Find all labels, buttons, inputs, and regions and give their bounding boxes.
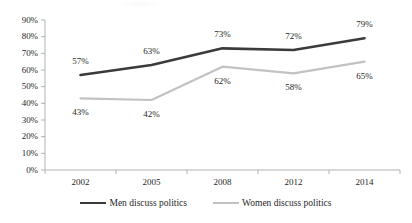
legend-line-icon-women <box>213 202 239 204</box>
x-axis-tick-label: 2012 <box>272 178 316 187</box>
legend-item-women[interactable]: Women discuss politics <box>213 198 331 208</box>
data-label: 79% <box>348 20 382 29</box>
y-axis-tick-label: 80% <box>0 32 38 41</box>
y-axis-tick-label: 10% <box>0 149 38 158</box>
data-label: 42% <box>135 110 169 119</box>
x-axis-tick-label: 2008 <box>201 178 245 187</box>
y-axis-tick-label: 60% <box>0 66 38 75</box>
x-axis-group <box>45 170 400 174</box>
x-axis-tick-label: 2002 <box>59 178 103 187</box>
data-label: 63% <box>135 47 169 56</box>
data-label: 43% <box>64 108 98 117</box>
data-label: 62% <box>206 77 240 86</box>
x-axis-tick-label: 2005 <box>130 178 174 187</box>
data-label: 72% <box>277 32 311 41</box>
chart-legend: Men discuss politics Women discuss polit… <box>0 198 412 208</box>
y-axis-tick-label: 0% <box>0 166 38 175</box>
legend-label-men: Men discuss politics <box>109 198 187 208</box>
y-axis-ticks <box>41 20 45 170</box>
plot-area: 90%80%70%60%50%40%30%20%10%0% 2002200520… <box>0 0 412 223</box>
data-label: 57% <box>64 57 98 66</box>
series-lines <box>81 38 365 100</box>
data-label: 65% <box>348 72 382 81</box>
x-axis-ticks <box>45 170 400 174</box>
data-label: 73% <box>206 30 240 39</box>
y-axis-tick-label: 30% <box>0 116 38 125</box>
line-chart: 90%80%70%60%50%40%30%20%10%0% 2002200520… <box>0 0 412 223</box>
legend-line-icon-men <box>80 202 106 204</box>
y-axis-tick-label: 70% <box>0 49 38 58</box>
y-axis-tick-label: 90% <box>0 16 38 25</box>
y-axis-tick-label: 20% <box>0 132 38 141</box>
data-label: 58% <box>277 83 311 92</box>
x-axis-tick-label: 2014 <box>343 178 387 187</box>
y-axis-group <box>41 20 45 170</box>
y-axis-tick-label: 50% <box>0 82 38 91</box>
y-axis-tick-label: 40% <box>0 99 38 108</box>
legend-item-men[interactable]: Men discuss politics <box>80 198 187 208</box>
legend-label-women: Women discuss politics <box>242 198 331 208</box>
